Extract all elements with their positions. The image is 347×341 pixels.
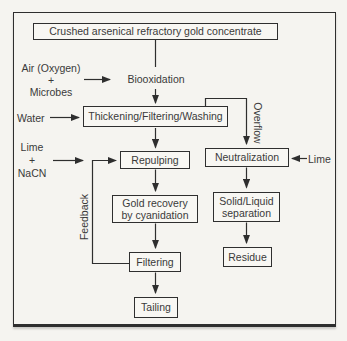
node-tailing-label: Tailing xyxy=(141,301,171,314)
node-solid-liquid: Solid/Liquid separation xyxy=(213,192,280,222)
node-biooxidation: Biooxidation xyxy=(116,73,196,85)
node-neutralization-label: Neutralization xyxy=(215,151,279,164)
input-lime-nacn-line1: Lime xyxy=(12,141,52,154)
input-lime-right: Lime xyxy=(308,153,331,165)
node-biooxidation-label: Biooxidation xyxy=(127,73,184,85)
input-water-label: Water xyxy=(17,112,45,124)
node-feed-concentrate-label: Crushed arsenical refractory gold concen… xyxy=(49,25,261,38)
node-filtering: Filtering xyxy=(129,252,181,272)
input-lime-nacn-line2: + xyxy=(12,154,52,167)
node-solid-liquid-line1: Solid/Liquid xyxy=(219,195,273,208)
input-air-microbes: Air (Oxygen) + Microbes xyxy=(10,62,92,98)
input-air-line3: Microbes xyxy=(10,86,92,98)
node-residue: Residue xyxy=(223,247,272,267)
node-gold-recovery-line2: by cyanidation xyxy=(121,209,188,222)
node-neutralization: Neutralization xyxy=(205,148,289,167)
node-repulping-label: Repulping xyxy=(131,154,178,167)
node-gold-recovery: Gold recovery by cyanidation xyxy=(112,195,198,223)
node-solid-liquid-line2: separation xyxy=(222,207,271,220)
input-air-line2: + xyxy=(10,74,92,86)
input-lime-nacn: Lime + NaCN xyxy=(12,141,52,180)
stream-feedback-text: Feedback xyxy=(78,194,90,240)
node-thickening-label: Thickening/Filtering/Washing xyxy=(88,110,222,123)
input-lime-nacn-line3: NaCN xyxy=(12,167,52,180)
node-filtering-label: Filtering xyxy=(136,256,173,269)
node-tailing: Tailing xyxy=(134,297,178,318)
stream-feedback-label: Feedback xyxy=(78,194,90,240)
stream-overflow-text: Overflow xyxy=(252,102,264,143)
node-gold-recovery-line1: Gold recovery xyxy=(122,197,187,210)
node-residue-label: Residue xyxy=(228,251,267,264)
node-thickening: Thickening/Filtering/Washing xyxy=(83,106,228,127)
node-repulping: Repulping xyxy=(120,151,190,169)
flow-arrows xyxy=(0,0,347,341)
node-feed-concentrate: Crushed arsenical refractory gold concen… xyxy=(33,23,278,40)
flowchart-canvas: Crushed arsenical refractory gold concen… xyxy=(0,0,347,341)
input-lime-right-label: Lime xyxy=(308,153,331,165)
stream-overflow-label: Overflow xyxy=(252,102,264,143)
input-air-line1: Air (Oxygen) xyxy=(10,62,92,74)
input-water: Water xyxy=(17,112,45,124)
